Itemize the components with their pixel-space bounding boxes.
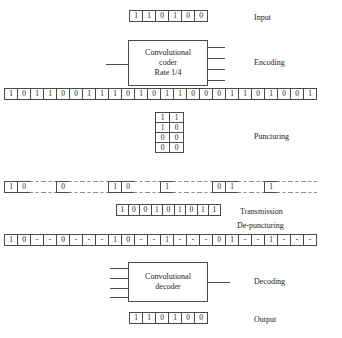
bit-cell: 1 [160, 234, 174, 246]
bit-cell: 0 [212, 88, 226, 100]
bit-cell: - [30, 234, 44, 246]
bit-cell: 0 [194, 312, 208, 324]
bit-cell: 1 [129, 10, 143, 22]
bit-cell: 0 [121, 181, 135, 193]
label-depuncturing: De-puncturing [237, 222, 284, 230]
bit-cell: 1 [108, 88, 122, 100]
bit-cell: 0 [194, 10, 208, 22]
input-bit-row: 110100 [129, 10, 208, 22]
bit-cell: 1 [4, 181, 18, 193]
label-decoding: Decoding [254, 278, 285, 286]
decoder-input-wire-3 [110, 288, 128, 289]
bit-cell: 1 [225, 88, 239, 100]
matrix-cell: 0 [155, 142, 170, 153]
coder-line-3: Rate 1/4 [155, 68, 182, 78]
bit-cell: - [290, 234, 304, 246]
bit-cell: - [43, 234, 57, 246]
puncturing-matrix: 11100000 [155, 112, 184, 153]
convolutional-coder-block[interactable]: Convolutional coder Rate 1/4 [128, 40, 208, 86]
bit-cell: 1 [238, 88, 252, 100]
bit-cell: 1 [168, 10, 182, 22]
depunctured-bit-row: 10--0---10--1---01--1--- [4, 234, 317, 246]
bit-cell: 1 [264, 181, 278, 193]
bit-cell: 0 [56, 234, 70, 246]
transmission-bit-row: 100101011 [116, 204, 221, 216]
bit-cell-punctured [134, 181, 148, 193]
punctured-bit-row: 100101011 [4, 181, 317, 193]
bit-cell: 0 [251, 88, 265, 100]
coder-output-wire-1 [207, 47, 225, 48]
bit-cell: 0 [155, 312, 169, 324]
coder-line-1: Convolutional [145, 48, 191, 58]
bit-cell: - [173, 234, 187, 246]
bit-cell: 0 [17, 88, 31, 100]
bit-cell: - [82, 234, 96, 246]
bit-cell: 1 [225, 181, 239, 193]
bit-cell-punctured [199, 181, 213, 193]
bit-cell: 0 [186, 88, 200, 100]
bit-cell-punctured [251, 181, 265, 193]
bit-cell-punctured [95, 181, 109, 193]
bit-cell: 1 [95, 88, 109, 100]
matrix-row: 00 [155, 142, 184, 153]
bit-cell-punctured [82, 181, 96, 193]
bit-cell: 0 [290, 88, 304, 100]
bit-cell: 0 [121, 234, 135, 246]
bit-cell: - [134, 234, 148, 246]
bit-cell: 1 [142, 312, 156, 324]
bit-cell-punctured [290, 181, 304, 193]
bit-cell: 0 [69, 88, 83, 100]
decoder-input-wire-1 [110, 268, 128, 269]
bit-cell: 1 [30, 88, 44, 100]
label-puncturing: Puncturing [254, 133, 289, 141]
bit-cell: 0 [181, 10, 195, 22]
bit-cell: 1 [160, 88, 174, 100]
bit-cell: 0 [121, 88, 135, 100]
bit-cell: 0 [199, 88, 213, 100]
bit-cell: 1 [4, 88, 18, 100]
encoded-bit-row: 101100111010110001101001 [4, 88, 317, 100]
bit-cell: 1 [43, 88, 57, 100]
decoder-line-2: decoder [155, 282, 180, 292]
bit-cell-punctured [147, 181, 161, 193]
bit-cell: 1 [264, 234, 278, 246]
bit-cell: 1 [129, 312, 143, 324]
decoder-input-wire-2 [110, 278, 128, 279]
bit-cell: 1 [208, 204, 221, 216]
bit-cell: 1 [134, 88, 148, 100]
decoder-line-1: Convolutional [145, 272, 191, 282]
label-output: Output [254, 316, 276, 324]
bit-cell-punctured [277, 181, 291, 193]
bit-cell: 0 [181, 312, 195, 324]
diagram-canvas: 110100 Input Convolutional coder Rate 1/… [0, 0, 342, 338]
bit-cell: 0 [212, 234, 226, 246]
bit-cell: - [238, 234, 252, 246]
bit-cell: 0 [147, 88, 161, 100]
convolutional-decoder-block[interactable]: Convolutional decoder [128, 262, 208, 302]
bit-cell: 1 [225, 234, 239, 246]
decoder-output-wire [207, 282, 230, 283]
decoder-input-wire-4 [110, 297, 128, 298]
bit-cell: 1 [160, 181, 174, 193]
label-encoding: Encoding [254, 59, 285, 67]
bit-cell-punctured [173, 181, 187, 193]
coder-output-wire-4 [207, 80, 225, 81]
label-transmission: Transmission [240, 208, 283, 216]
bit-cell: 1 [108, 234, 122, 246]
bit-cell: 0 [277, 88, 291, 100]
bit-cell: - [147, 234, 161, 246]
bit-cell: 1 [173, 88, 187, 100]
bit-cell-punctured [43, 181, 57, 193]
bit-cell: - [277, 234, 291, 246]
bit-cell: 1 [142, 10, 156, 22]
bit-cell: 0 [56, 181, 70, 193]
bit-cell-punctured [303, 181, 317, 193]
bit-cell: - [251, 234, 265, 246]
bit-cell: 1 [4, 234, 18, 246]
bit-cell: 0 [17, 234, 31, 246]
coder-line-2: coder [159, 58, 177, 68]
bit-cell: - [199, 234, 213, 246]
bit-cell: 0 [212, 181, 226, 193]
bit-cell: 1 [108, 181, 122, 193]
bit-cell: 1 [264, 88, 278, 100]
